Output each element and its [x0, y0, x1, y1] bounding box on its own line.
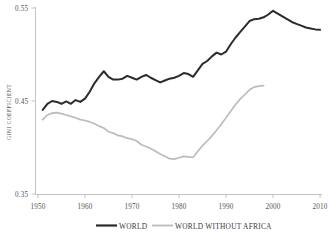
x-tick-label-2000: 2000	[265, 203, 280, 211]
x-axis-ticks	[38, 195, 320, 199]
gini-coefficient-line-chart: GINI COEFFICIENT 0.55 0.45 0.35 1950 196…	[0, 0, 333, 236]
x-tick-label-1950: 1950	[30, 203, 45, 211]
legend-label-world: WORLD	[119, 222, 148, 231]
chart-canvas: GINI COEFFICIENT 0.55 0.45 0.35 1950 196…	[0, 0, 333, 236]
y-tick-label-0.35: 0.35	[15, 191, 29, 199]
x-tick-label-1990: 1990	[218, 203, 233, 211]
y-tick-label-0.45: 0.45	[15, 98, 29, 106]
x-tick-label-1960: 1960	[77, 203, 92, 211]
y-tick-label-0.55: 0.55	[15, 5, 29, 13]
x-tick-label-1970: 1970	[124, 203, 139, 211]
y-axis-title: GINI COEFFICIENT	[6, 84, 12, 140]
series-line-world	[43, 11, 320, 110]
chart-legend: WORLD WORLD WITHOUT AFRICA	[96, 222, 272, 231]
x-tick-label-1980: 1980	[171, 203, 186, 211]
legend-label-world-without-africa: WORLD WITHOUT AFRICA	[175, 222, 272, 231]
series-line-world-without-africa	[43, 86, 264, 159]
x-tick-label-2010: 2010	[312, 203, 327, 211]
